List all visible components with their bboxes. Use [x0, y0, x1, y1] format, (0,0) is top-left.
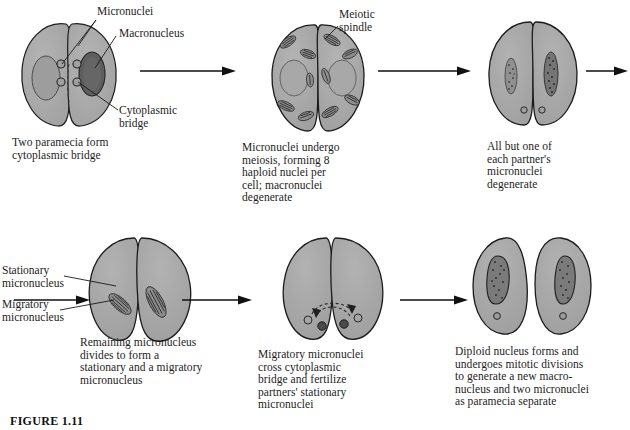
figure-canvas: Micronuclei Macronucleus Cytoplasmic bri… — [0, 0, 630, 430]
arrow-step-4-to-5 — [182, 293, 254, 307]
caption-step-6: Diploid nucleus forms and undergoes mito… — [455, 345, 630, 408]
step-2-leader-line — [240, 0, 420, 60]
step-6-cell-art — [469, 238, 595, 340]
caption-step-3: All but one of each partner's micronucle… — [487, 140, 607, 190]
panel-step-1: Micronuclei Macronucleus Cytoplasmic bri… — [0, 0, 215, 175]
label-micronuclei: Micronuclei — [97, 5, 153, 18]
label-stationary-micronucleus: Stationary micronucleus — [2, 264, 64, 289]
caption-step-5: Migratory micronuclei cross cytoplasmic … — [258, 348, 428, 411]
caption-step-2: Micronuclei undergo meiosis, forming 8 h… — [242, 141, 407, 204]
arrow-step-3-to-wrap — [586, 64, 630, 78]
caption-step-1: Two paramecia form cytoplasmic bridge — [12, 136, 162, 161]
panel-step-5: Migratory micronuclei cross cytoplasmic … — [258, 238, 438, 428]
label-migratory-micronucleus: Migratory micronucleus — [2, 298, 64, 323]
panel-step-4: Stationary micronucleus Migratory micron… — [0, 228, 240, 418]
label-meiotic-spindle: Meiotic spindle — [339, 8, 375, 33]
label-macronucleus: Macronucleus — [119, 27, 184, 40]
panel-step-2: Meiotic spindle Micronuclei undergo meio… — [240, 0, 420, 215]
panel-step-6: Diploid nucleus forms and undergoes mito… — [455, 238, 630, 428]
step-3-cell-art — [479, 18, 587, 130]
label-cytoplasmic-bridge: Cytoplasmic bridge — [119, 104, 177, 129]
arrow-step-1-to-2 — [140, 64, 238, 78]
panel-step-3: All but one of each partner's micronucle… — [455, 0, 605, 200]
caption-step-4: Remaining micronucleus divides to form a… — [80, 336, 240, 386]
figure-number: FIGURE 1.11 — [10, 414, 83, 430]
step-5-cell-art — [272, 238, 396, 348]
